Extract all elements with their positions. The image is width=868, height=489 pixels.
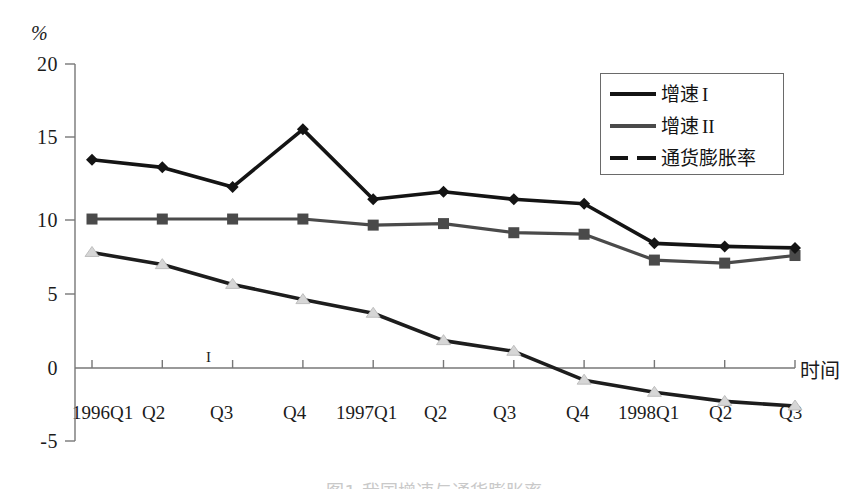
legend-key-dashed-icon bbox=[610, 149, 656, 167]
series-inflation-rate bbox=[85, 246, 802, 410]
legend-label-2: 通货膨胀率 bbox=[661, 148, 756, 168]
legend-item-1[interactable]: 增速II bbox=[601, 110, 783, 142]
legend-item-2[interactable]: 通货膨胀率 bbox=[601, 142, 783, 174]
figure-caption: 图1 我国增速与通货膨胀率 bbox=[0, 477, 868, 489]
legend-label-text-0: 增速 bbox=[661, 83, 699, 105]
legend-key-square-icon bbox=[610, 117, 656, 135]
legend-key-diamond-icon bbox=[610, 85, 656, 103]
legend-label-1: 增速II bbox=[661, 116, 715, 137]
series-growth-rate-2 bbox=[87, 214, 801, 269]
legend-label-roman-1: II bbox=[702, 116, 715, 137]
legend-item-0[interactable]: 增速I bbox=[601, 78, 783, 110]
legend-label-text-1: 增速 bbox=[661, 115, 699, 137]
legend-label-0: 增速I bbox=[661, 84, 708, 105]
legend: 增速I 增速II 通货膨胀率 bbox=[600, 73, 784, 175]
x-tick-marks bbox=[92, 360, 795, 368]
legend-label-roman-0: I bbox=[702, 84, 708, 105]
y-tick-marks bbox=[65, 64, 75, 441]
figure-container: % 20 15 10 5 0 -5 1996Q1 Q2 Q3 Q4 1997Q1… bbox=[0, 0, 868, 489]
